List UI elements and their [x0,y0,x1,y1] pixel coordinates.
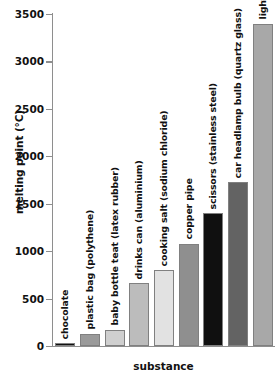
y-axis-tick [46,204,52,205]
bar-label: cooking salt (sodium chloride) [159,110,168,266]
bar [253,24,273,347]
y-axis-tick-label: 3000 [0,56,44,67]
bar-chart: melting point (°C) 050010001500200025003… [0,0,277,379]
y-axis-tick [46,299,52,300]
y-axis-tick [46,109,52,110]
y-axis-tick-label: 1000 [0,246,44,257]
bar-label: light bulb filament (tungsten) [257,0,266,20]
bar-label: scissors (stainless steel) [208,83,217,209]
bar-label: car headlamp bulb (quartz glass) [233,7,242,177]
bar [228,182,248,346]
y-axis-tick-label: 500 [0,294,44,305]
bar-label: copper pipe [183,179,192,240]
bar-label: baby bottle teat (latex rubber) [109,168,118,326]
y-axis-tick-label: 2000 [0,151,44,162]
y-axis-tick-label: 2500 [0,104,44,115]
bar-label: plastic bag (polythene) [85,210,94,330]
bar-label: drinks can (aluminium) [134,160,143,279]
bar [129,283,149,346]
y-axis-tick [46,346,52,347]
bar [203,213,223,346]
y-axis-tick [46,14,52,15]
plot-area: chocolateplastic bag (polythene)baby bot… [53,14,275,346]
y-axis-tick-label: 3500 [0,9,44,20]
y-axis-tick-label: 1500 [0,199,44,210]
y-axis-tick [46,156,52,157]
y-axis-tick-label: 0 [0,341,44,352]
x-axis-line [52,346,275,347]
bar [105,330,125,346]
y-axis-tick [46,251,52,252]
bar [55,343,75,346]
bar [80,334,100,346]
y-axis-tick [46,61,52,62]
bar-label: chocolate [60,289,69,339]
bar [154,270,174,346]
x-axis-title: substance [52,360,275,372]
bar [179,244,199,346]
